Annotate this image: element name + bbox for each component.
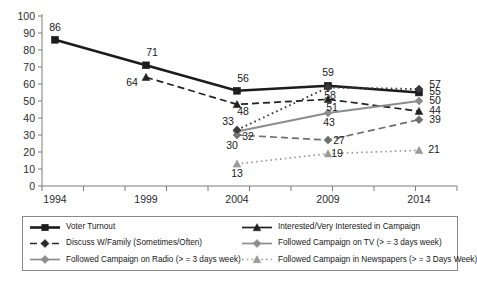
- data-point-label: 48: [237, 105, 249, 117]
- data-point-label: 86: [49, 21, 61, 33]
- data-point-label: 19: [331, 147, 343, 159]
- legend-item-label: Followed Campaign in Newspapers (> = 3 D…: [278, 256, 477, 264]
- y-tick-label: 10: [23, 163, 35, 175]
- data-point-label: 39: [429, 113, 441, 125]
- y-tick-label: 60: [23, 78, 35, 90]
- legend-swatch-triangle-icon: [241, 222, 273, 233]
- data-point-label: 50: [429, 94, 441, 106]
- data-point-label: 51: [326, 101, 338, 113]
- x-tick-label: 2014: [407, 193, 431, 205]
- legend-item-label: Followed Campaign on TV (> = 3 days week…: [278, 239, 442, 247]
- legend-item[interactable]: Discuss W/Family (Sometimes/Often): [23, 238, 235, 249]
- legend-item-label: Interested/Very Interested in Campaign: [278, 223, 420, 231]
- legend-item[interactable]: Followed Campaign in Newspapers (> = 3 D…: [235, 254, 459, 265]
- data-labels-layer: 8671565955644851443027393243503358571319…: [49, 21, 441, 179]
- y-tick-label: 90: [23, 27, 35, 39]
- x-tick-label: 1994: [43, 193, 67, 205]
- data-point-marker: [52, 36, 59, 43]
- legend-item-label: Discuss W/Family (Sometimes/Often): [66, 239, 202, 247]
- legend-item[interactable]: Followed Campaign on Radio (> = 3 days w…: [23, 254, 235, 265]
- data-point-label: 33: [222, 115, 234, 127]
- legend-swatch-triangle-icon: [241, 254, 273, 265]
- y-tick-label: 80: [23, 44, 35, 56]
- plot-area: 1009080706050403020100 19941999200420092…: [0, 0, 473, 205]
- series-line: [55, 40, 419, 93]
- data-point-marker: [142, 73, 150, 80]
- data-point-marker: [143, 62, 150, 69]
- data-point-label: 57: [429, 78, 441, 90]
- legend-swatch-diamond-icon: [29, 254, 61, 265]
- x-tick-label: 2009: [316, 193, 340, 205]
- data-point-label: 43: [323, 116, 335, 128]
- data-point-label: 21: [428, 143, 440, 155]
- data-point-label: 56: [237, 72, 249, 84]
- y-tick-label: 30: [23, 129, 35, 141]
- y-tick-label: 40: [23, 112, 35, 124]
- legend-swatch-diamond-icon: [241, 238, 273, 249]
- legend-item[interactable]: Voter Turnout: [23, 222, 235, 233]
- data-point-marker: [415, 97, 423, 105]
- legend-item[interactable]: Interested/Very Interested in Campaign: [235, 222, 459, 233]
- x-tick-label: 2004: [225, 193, 249, 205]
- legend-item-label: Voter Turnout: [66, 223, 115, 231]
- legend-item-label: Followed Campaign on Radio (> = 3 days w…: [66, 256, 241, 264]
- legend-swatch-square-icon: [29, 222, 61, 233]
- y-tick-label: 0: [29, 180, 35, 192]
- line-chart-svg: 1009080706050403020100 19941999200420092…: [0, 0, 473, 205]
- data-point-marker: [324, 136, 332, 144]
- y-axis: 1009080706050403020100: [17, 10, 42, 192]
- legend-swatch-diamond-icon: [29, 238, 61, 249]
- data-point-label: 27: [333, 134, 345, 146]
- legend-item[interactable]: Followed Campaign on TV (> = 3 days week…: [235, 238, 459, 249]
- data-point-label: 64: [126, 76, 138, 88]
- data-point-label: 59: [322, 66, 334, 78]
- legend-grid: Voter TurnoutInterested/Very Interested …: [23, 217, 457, 270]
- data-point-marker: [234, 87, 241, 94]
- y-tick-label: 20: [23, 146, 35, 158]
- data-point-label: 13: [231, 167, 243, 179]
- y-tick-label: 100: [17, 10, 35, 22]
- chart-legend: Voter TurnoutInterested/Very Interested …: [22, 216, 458, 271]
- data-point-label: 30: [226, 139, 238, 151]
- x-tick-label: 1999: [134, 193, 158, 205]
- data-point-marker: [415, 147, 423, 154]
- y-tick-label: 70: [23, 61, 35, 73]
- data-point-label: 58: [324, 89, 336, 101]
- y-tick-label: 50: [23, 95, 35, 107]
- data-point-label: 32: [242, 130, 254, 142]
- data-point-marker: [415, 116, 423, 124]
- data-point-label: 71: [146, 46, 158, 58]
- x-axis: 19941999200420092014: [42, 186, 457, 205]
